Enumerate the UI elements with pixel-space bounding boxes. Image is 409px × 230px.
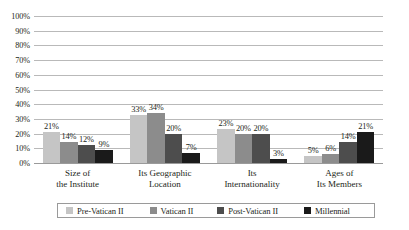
bar-group: 33%34%20%7% (130, 16, 200, 163)
y-axis: 0%10%20%30%40%50%60%70%80%90%100% (0, 0, 34, 230)
bar[interactable] (304, 156, 322, 163)
category-label-line-2: Its Members (296, 179, 383, 190)
x-axis-category-label: Ages ofIts Members (296, 168, 383, 190)
legend-label: Post-Vatican II (228, 206, 278, 216)
category-label-line-2: Internationality (209, 179, 296, 190)
bar-value-label: 21% (44, 122, 59, 131)
bar-group: 23%20%20%3% (217, 16, 287, 163)
category-label-line-2: Location (121, 179, 208, 190)
bar-group: 5%6%14%21% (304, 16, 374, 163)
category-label-line-1: Ages of (325, 168, 353, 178)
bar-group: 21%14%12%9% (43, 16, 113, 163)
y-axis-tick-label: 30% (0, 114, 30, 123)
legend-item[interactable]: Pre-Vatican II (66, 206, 124, 216)
bar-slot: 14% (60, 16, 78, 163)
bar-value-label: 34% (149, 103, 164, 112)
y-axis-tick-label: 50% (0, 85, 30, 94)
bar-slot: 7% (182, 16, 200, 163)
x-axis-category-label: Size ofthe Institute (34, 168, 121, 190)
y-axis-tick-label: 0% (0, 159, 30, 168)
bar-group-bars: 5%6%14%21% (304, 16, 374, 163)
bar-slot: 34% (147, 16, 165, 163)
bar-slot: 5% (304, 16, 322, 163)
bar-slot: 20% (235, 16, 253, 163)
bar[interactable] (95, 150, 113, 163)
axis-baseline (34, 163, 383, 164)
legend-swatch-icon (150, 207, 157, 214)
bar[interactable] (235, 134, 253, 163)
bar-slot: 20% (252, 16, 270, 163)
bar-value-label: 5% (308, 146, 319, 155)
bar-slot: 33% (130, 16, 148, 163)
chart-legend: Pre-Vatican IIVatican IIPost-Vatican IIM… (57, 203, 375, 218)
bar-value-label: 14% (341, 132, 356, 141)
bar-slot: 21% (357, 16, 375, 163)
bar[interactable] (252, 134, 270, 163)
y-axis-tick-label: 100% (0, 12, 30, 21)
bar-slot: 23% (217, 16, 235, 163)
bar-value-label: 21% (358, 122, 373, 131)
bar[interactable] (182, 153, 200, 163)
legend-swatch-icon (217, 207, 224, 214)
legend-label: Pre-Vatican II (77, 206, 124, 216)
bar-group-bars: 23%20%20%3% (217, 16, 287, 163)
bar[interactable] (217, 129, 235, 163)
bar-group-bars: 21%14%12%9% (43, 16, 113, 163)
y-axis-tick-label: 10% (0, 144, 30, 153)
bar[interactable] (60, 142, 78, 163)
bar-slot: 6% (322, 16, 340, 163)
category-label-line-2: the Institute (34, 179, 121, 190)
y-axis-tick-label: 40% (0, 100, 30, 109)
bar-value-label: 33% (131, 105, 146, 114)
legend-label: Millennial (315, 206, 350, 216)
legend-item[interactable]: Post-Vatican II (217, 206, 278, 216)
bar[interactable] (43, 132, 61, 163)
legend-swatch-icon (304, 207, 311, 214)
y-axis-tick-label: 60% (0, 70, 30, 79)
bar[interactable] (322, 154, 340, 163)
bar[interactable] (339, 142, 357, 163)
bar-slot: 3% (270, 16, 288, 163)
bar-value-label: 12% (79, 135, 94, 144)
bar-slot: 9% (95, 16, 113, 163)
bar[interactable] (270, 159, 288, 163)
bar[interactable] (165, 134, 183, 163)
legend-label: Vatican II (161, 206, 194, 216)
bar-value-label: 20% (236, 124, 251, 133)
bar-value-label: 20% (166, 124, 181, 133)
legend-item[interactable]: Vatican II (150, 206, 194, 216)
bar-value-label: 23% (218, 119, 233, 128)
bar-value-label: 7% (186, 143, 197, 152)
bar-group-bars: 33%34%20%7% (130, 16, 200, 163)
bar[interactable] (130, 115, 148, 164)
bar-value-label: 14% (61, 132, 76, 141)
category-label-line-1: Size of (65, 168, 90, 178)
bar-value-label: 3% (273, 149, 284, 158)
x-axis-category-label: Its GeographicLocation (121, 168, 208, 190)
legend-swatch-icon (66, 207, 73, 214)
x-axis-category-label: ItsInternationality (209, 168, 296, 190)
bar-value-label: 20% (253, 124, 268, 133)
bar[interactable] (78, 145, 96, 163)
bar-value-label: 9% (98, 140, 109, 149)
bar-slot: 20% (165, 16, 183, 163)
legend-item[interactable]: Millennial (304, 206, 350, 216)
category-label-line-1: Its (248, 168, 257, 178)
bar-slot: 14% (339, 16, 357, 163)
bar[interactable] (357, 132, 375, 163)
bar[interactable] (147, 113, 165, 163)
bar-slot: 12% (78, 16, 96, 163)
y-axis-tick-label: 90% (0, 26, 30, 35)
y-axis-tick-label: 80% (0, 41, 30, 50)
bar-chart: 0%10%20%30%40%50%60%70%80%90%100% 21%14%… (0, 0, 409, 230)
category-label-line-1: Its Geographic (138, 168, 191, 178)
bar-value-label: 6% (325, 144, 336, 153)
plot-area: 21%14%12%9%33%34%20%7%23%20%20%3%5%6%14%… (34, 16, 383, 163)
y-axis-tick-label: 70% (0, 56, 30, 65)
y-axis-tick-label: 20% (0, 129, 30, 138)
bar-slot: 21% (43, 16, 61, 163)
